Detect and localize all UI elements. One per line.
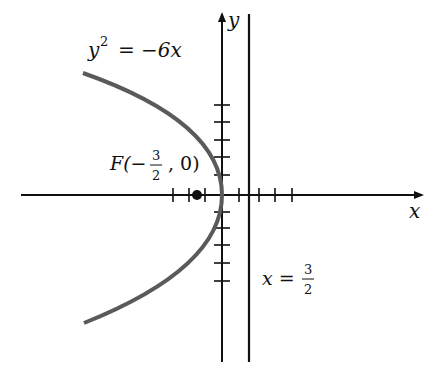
- svg-text:F(−: F(−: [109, 152, 147, 174]
- equation-label: y 2 = −6x: [87, 34, 182, 62]
- svg-text:2: 2: [152, 168, 160, 183]
- parabola-curve: [83, 73, 222, 323]
- focus-point: [192, 190, 202, 200]
- directrix-label: x = 3 2: [262, 262, 314, 297]
- svg-text:x =: x =: [262, 267, 295, 289]
- svg-text:2: 2: [100, 34, 108, 49]
- parabola-diagram: y x y 2 = −6x F(− 3 2 , 0) x = 3 2: [0, 0, 442, 370]
- svg-text:= −6x: = −6x: [118, 38, 182, 62]
- svg-text:y: y: [87, 38, 100, 62]
- svg-text:3: 3: [304, 262, 312, 277]
- svg-text:, 0): , 0): [168, 152, 200, 174]
- focus-label: F(− 3 2 , 0): [109, 148, 200, 183]
- svg-text:2: 2: [304, 282, 312, 297]
- svg-text:3: 3: [152, 148, 160, 163]
- x-axis-label: x: [409, 199, 420, 223]
- y-axis-label: y: [227, 8, 240, 32]
